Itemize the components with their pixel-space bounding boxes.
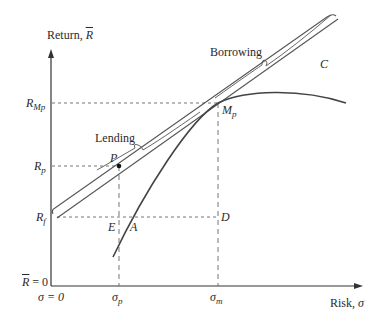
capital-market-lines — [52, 15, 338, 218]
point-a-label: A — [130, 221, 137, 233]
y-origin-label: R = 0 — [22, 276, 48, 288]
curve-c-label: C — [320, 58, 328, 70]
y-tick-rf: Rf — [36, 211, 46, 226]
point-m-symbol: M — [222, 103, 232, 117]
y-tick-rmp: RMp — [26, 97, 45, 112]
lending-label: Lending — [95, 132, 135, 144]
point-m-sub: p — [232, 109, 237, 119]
borrowing-label: Borrowing — [210, 46, 262, 58]
upper-line — [52, 15, 336, 214]
guide-lines — [52, 103, 218, 286]
x-tick-sigma-m: σm — [210, 291, 222, 306]
point-p-label: P — [110, 152, 117, 164]
point-mp-label: Mp — [222, 104, 237, 119]
y-origin-rest: = 0 — [29, 275, 48, 289]
x-tick-sigma-p-sub: p — [118, 296, 123, 306]
y-axis-label-symbol: R — [86, 28, 93, 42]
lower-line — [57, 19, 338, 218]
x-axis-label-text: Risk, — [330, 296, 358, 310]
x-axis-label-symbol: σ — [358, 296, 364, 310]
y-axis-label: Return, R — [47, 29, 93, 41]
x-origin-label: σ = 0 — [38, 291, 64, 303]
y-tick-rp-sub: p — [41, 165, 46, 175]
point-d-label: D — [221, 211, 230, 223]
x-axis-label: Risk, σ — [330, 297, 364, 309]
x-tick-sigma-p: σp — [112, 291, 122, 306]
y-axis-label-text: Return, — [47, 28, 86, 42]
y-tick-rp: Rp — [34, 160, 46, 175]
axes — [51, 55, 357, 286]
x-tick-sigma-m-sub: m — [216, 296, 223, 306]
point-p-marker — [117, 164, 122, 169]
point-e-label: E — [108, 221, 115, 233]
y-tick-rf-sub: f — [43, 216, 46, 226]
y-axis-arrow-icon — [48, 49, 54, 58]
cml-diagram — [0, 0, 382, 325]
x-axis-arrow-icon — [354, 283, 363, 289]
y-tick-rmp-sub: Mp — [33, 102, 45, 112]
